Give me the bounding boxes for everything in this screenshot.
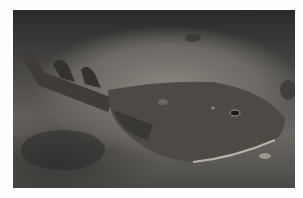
ray-illustration	[13, 10, 295, 188]
photo	[13, 10, 295, 188]
